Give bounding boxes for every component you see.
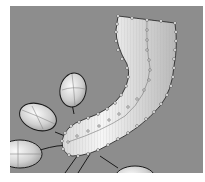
ellipsoid-top[interactable] — [57, 71, 89, 109]
3d-viewport[interactable] — [10, 6, 203, 173]
ellipsoid-middle-left[interactable] — [16, 98, 61, 135]
ellipsoid-bottom[interactable] — [115, 166, 155, 173]
ellipsoid-left[interactable] — [10, 140, 42, 168]
